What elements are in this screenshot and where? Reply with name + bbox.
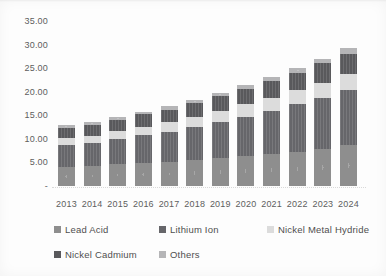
bar-segment [135, 114, 152, 126]
bar-segment [58, 145, 75, 167]
legend-swatch-icon [267, 226, 274, 233]
bar-2022 [289, 68, 306, 186]
legend-swatch-icon [54, 226, 61, 233]
legend-label: Nickel Metal Hydride [278, 224, 369, 235]
x-tick-label: 2014 [78, 199, 106, 209]
bar-2024 [340, 48, 357, 186]
x-tick-label: 2024 [335, 199, 363, 209]
bar-segment [289, 73, 306, 90]
bar-2021 [263, 77, 280, 186]
bar-2016 [135, 112, 152, 186]
bar-segment [161, 110, 178, 123]
legend-label: Nickel Cadmium [65, 249, 137, 260]
bar-segment [84, 136, 101, 144]
bar-segment [314, 83, 331, 98]
bar-segment [212, 158, 229, 186]
legend-label: Lithium Ion [170, 224, 219, 235]
x-tick-label: 2016 [129, 199, 157, 209]
stacked-bar-chart: 35.0030.0025.0020.0015.0010.005.00- 2013… [0, 0, 386, 276]
legend-item-nickel-cadmium: Nickel Cadmium [54, 249, 137, 260]
legend-item-nickel-metal-hydride: Nickel Metal Hydride [267, 224, 369, 235]
bar-segment [289, 90, 306, 104]
legend-item-lead-acid: Lead Acid [54, 224, 109, 235]
bar-segment [109, 164, 126, 186]
bar-segment [237, 117, 254, 157]
bar-segment [212, 122, 229, 158]
bar-segment [237, 156, 254, 186]
bar-segment [263, 81, 280, 98]
bar-segment [340, 90, 357, 146]
bar-segment [314, 149, 331, 186]
bar-segment [135, 127, 152, 135]
legend-label: Others [170, 249, 200, 260]
bar-segment [289, 152, 306, 186]
bar-segment [237, 89, 254, 105]
x-tick-label: 2020 [232, 199, 260, 209]
bar-segment [58, 138, 75, 145]
x-tick-label: 2019 [206, 199, 234, 209]
x-tick-label: 2015 [104, 199, 132, 209]
bar-segment [186, 103, 203, 117]
bar-2017 [161, 106, 178, 186]
x-axis: 2013201420152016201720182019202020212022… [0, 199, 386, 213]
bar-segment [237, 104, 254, 116]
x-tick-label: 2018 [181, 199, 209, 209]
bar-2020 [237, 85, 254, 186]
bar-segment [314, 63, 331, 82]
bar-segment [263, 154, 280, 186]
bar-segment [161, 122, 178, 131]
bar-2014 [84, 122, 101, 186]
bar-segment [212, 96, 229, 111]
bar-segment [340, 54, 357, 74]
bar-segment [109, 139, 126, 164]
bar-2023 [314, 59, 331, 186]
bar-segment [84, 166, 101, 186]
bar-2018 [186, 100, 203, 186]
x-tick-label: 2023 [309, 199, 337, 209]
x-tick-label: 2021 [258, 199, 286, 209]
legend-label: Lead Acid [65, 224, 109, 235]
x-axis-line [52, 187, 366, 188]
bar-segment [186, 160, 203, 186]
legend-item-others: Others [159, 249, 200, 260]
bar-segment [314, 98, 331, 149]
bar-2013 [58, 125, 75, 186]
bar-segment [186, 117, 203, 127]
legend-swatch-icon [54, 251, 61, 258]
legend-swatch-icon [159, 251, 166, 258]
x-tick-label: 2017 [155, 199, 183, 209]
bar-segment [135, 135, 152, 163]
bar-segment [289, 104, 306, 151]
bar-segment [58, 167, 75, 186]
bar-segment [263, 111, 280, 154]
bar-segment [212, 111, 229, 122]
x-tick-label: 2022 [283, 199, 311, 209]
bar-segment [109, 131, 126, 139]
legend-swatch-icon [159, 226, 166, 233]
bar-segment [340, 74, 357, 90]
legend: Lead AcidLithium IonNickel Metal Hydride… [0, 221, 386, 271]
x-tick-label: 2013 [53, 199, 81, 209]
bar-segment [84, 143, 101, 166]
bar-2015 [109, 117, 126, 186]
bar-segment [263, 98, 280, 111]
bar-2019 [212, 93, 229, 186]
bar-segment [58, 128, 75, 138]
bar-segment [186, 127, 203, 160]
bar-segment [161, 162, 178, 187]
bar-segment [109, 120, 126, 131]
bar-segment [84, 125, 101, 136]
bar-segment [161, 132, 178, 162]
legend-item-lithium-ion: Lithium Ion [159, 224, 219, 235]
bar-segment [340, 145, 357, 186]
bar-segment [135, 163, 152, 186]
